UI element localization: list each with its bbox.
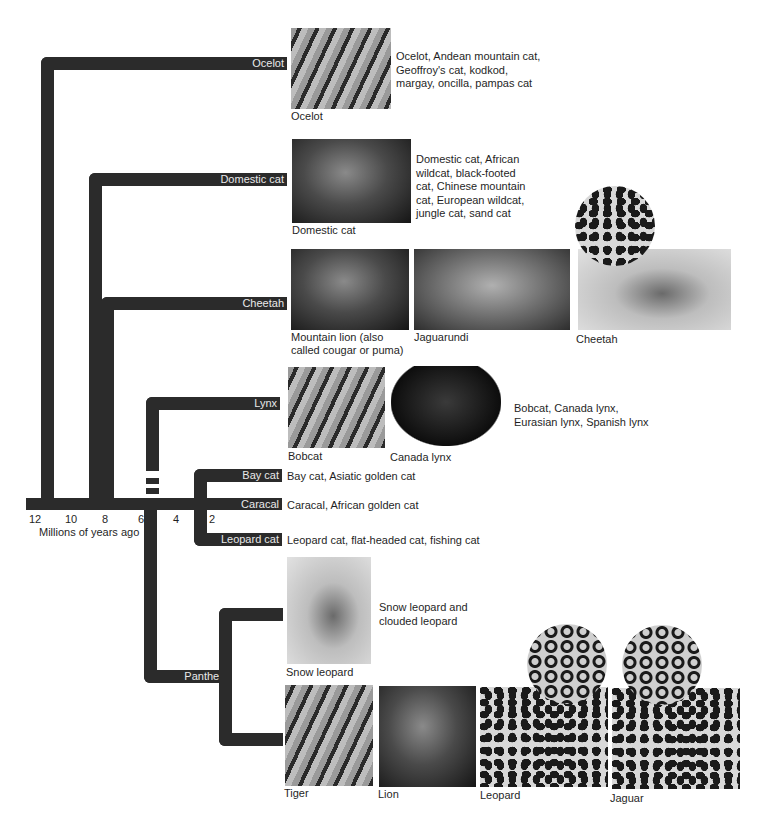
cheetah-branch-vertical — [101, 297, 114, 499]
snow-leopard-caption: Snow leopard — [286, 666, 353, 679]
lion-caption: Lion — [378, 788, 399, 801]
cheetah-coat-pattern — [575, 186, 655, 266]
axis-tick-6: 6 — [138, 513, 144, 525]
leopard-caption: Leopard — [480, 789, 520, 802]
axis-tick-8: 8 — [102, 513, 108, 525]
ocelot-members: Ocelot, Andean mountain cat, Geoffroy's … — [396, 50, 546, 91]
domestic-cat-photo — [292, 139, 411, 223]
axis-tick-4: 4 — [173, 513, 179, 525]
domestic-branch-label: Domestic cat — [150, 173, 287, 186]
leopard-coat-pattern — [527, 624, 607, 704]
lynx-branch-dash-2 — [146, 488, 159, 494]
mountain-lion-caption: Mountain lion (also called cougar or pum… — [291, 331, 411, 357]
axis-label: Millions of years ago — [39, 526, 139, 538]
root-branch — [26, 498, 208, 510]
tiger-photo — [285, 685, 373, 786]
leopardcat-branch-label: Leopard cat — [200, 533, 282, 546]
jaguar-caption: Jaguar — [610, 792, 644, 805]
baycat-members: Bay cat, Asiatic golden cat — [287, 470, 415, 484]
domestic-cat-members: Domestic cat, African wildcat, black-foo… — [416, 153, 531, 221]
panthera-snow-members: Snow leopard and clouded leopard — [379, 601, 474, 628]
bobcat-photo — [288, 367, 385, 448]
ocelot-branch-label: Ocelot — [150, 57, 287, 70]
cheetah-caption: Cheetah — [576, 333, 618, 346]
leopard-photo — [480, 687, 608, 787]
axis-tick-12: 12 — [29, 513, 41, 525]
caracal-members: Caracal, African golden cat — [287, 499, 418, 513]
jaguarundi-photo — [414, 249, 570, 330]
jaguar-photo — [612, 688, 740, 789]
jaguarundi-caption: Jaguarundi — [414, 331, 468, 344]
ocelot-photo — [291, 28, 391, 109]
jaguar-coat-pattern — [622, 625, 702, 705]
bobcat-caption: Bobcat — [288, 450, 322, 463]
domestic-cat-caption: Domestic cat — [292, 224, 356, 237]
tiger-caption: Tiger — [284, 787, 309, 800]
lynx-branch-label: Lynx — [200, 397, 280, 410]
baycat-branch-label: Bay cat — [210, 469, 282, 482]
canada-lynx-caption: Canada lynx — [390, 451, 451, 464]
panthera-inner-vertical — [219, 608, 232, 746]
cheetah-branch-label: Cheetah — [150, 297, 287, 310]
panthera-branch-vertical — [144, 505, 157, 683]
caracal-branch-label: Caracal — [210, 498, 282, 511]
lion-photo — [379, 686, 476, 787]
bigcats-branch-horizontal — [219, 733, 283, 746]
lynx-members: Bobcat, Canada lynx, Eurasian lynx, Span… — [514, 402, 654, 429]
snowleopard-branch-horizontal — [219, 608, 283, 621]
ocelot-caption: Ocelot — [291, 110, 323, 123]
leopardcat-members: Leopard cat, flat-headed cat, fishing ca… — [287, 534, 480, 548]
canada-lynx-photo — [391, 366, 501, 446]
snow-leopard-photo — [287, 557, 371, 664]
mountain-lion-photo — [291, 249, 409, 330]
axis-tick-2: 2 — [209, 513, 215, 525]
ocelot-branch-vertical — [41, 57, 54, 499]
axis-tick-10: 10 — [65, 513, 77, 525]
lynx-branch-dash-1 — [146, 478, 159, 484]
